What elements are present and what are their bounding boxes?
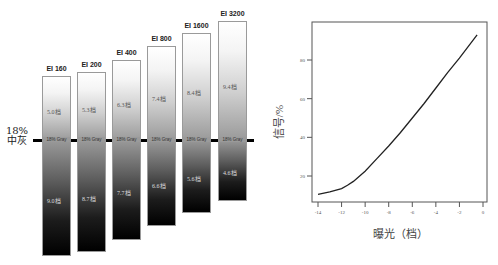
stops-under-label: 8.7档 [82,194,96,203]
y-axis-ticks: 20406080 [300,58,312,179]
ei-bar [147,46,176,226]
stops-under-label: 9.0档 [47,196,61,205]
x-tick-label: -12 [338,210,345,215]
y-axis-label: 信号/% [273,105,285,139]
gray-18-label: 18% Gray [112,137,141,142]
stops-over-label: 6.3档 [117,100,131,109]
stops-over-label: 7.4档 [152,94,166,103]
stops-under-label: 6.6档 [152,181,166,190]
x-tick-label: -14 [315,210,322,215]
ei-label: EI 160 [37,65,77,72]
y-tick-label: 20 [300,174,306,179]
ei-bar [182,33,211,213]
x-tick-label: -10 [362,210,369,215]
x-tick-label: -2 [457,210,462,215]
ei-label: EI 3200 [213,10,253,17]
stops-over-label: 8.4档 [187,88,201,97]
gray-18-label: 18% Gray [218,137,247,142]
ei-label: EI 1600 [177,22,217,29]
x-axis-label: 曝光（档） [373,227,428,240]
x-tick-label: -8 [387,210,392,215]
ei-label: EI 800 [142,35,182,42]
middle-gray-text: 中灰 [2,136,32,146]
ei-dynamic-range-bars: 18% 中灰 EI 1605.0档9.0档EI 2005.3档8.7档EI 40… [0,0,260,265]
gray-18-label: 18% Gray [42,137,71,142]
gray-18-label: 18% Gray [147,137,176,142]
stops-over-label: 5.0档 [47,107,61,116]
stops-under-label: 4.6档 [223,168,237,177]
ei-label: EI 400 [107,49,147,56]
gray-18-label: 18% Gray [77,137,106,142]
plot-frame [312,22,487,202]
stops-under-label: 7.7档 [117,188,131,197]
y-tick-label: 60 [300,97,306,102]
middle-gray-label: 18% 中灰 [2,126,32,146]
x-tick-label: -4 [434,210,439,215]
x-tick-label: -6 [410,210,415,215]
stops-over-label: 5.3档 [82,105,96,114]
ei-bar [112,60,141,240]
y-tick-label: 40 [300,135,306,140]
stops-over-label: 9.4档 [223,82,237,91]
ei-bar [77,72,106,252]
x-axis-ticks: -14-12-10-8-6-4-20 [315,202,485,215]
ei-label: EI 200 [72,61,112,68]
signal-exposure-chart: 20406080 -14-12-10-8-6-4-20 信号/% 曝光（档） [270,0,498,265]
y-tick-label: 80 [300,58,306,63]
gray-18-label: 18% Gray [182,137,211,142]
ei-bar [42,76,71,256]
stops-under-label: 5.6档 [187,174,201,183]
chart-svg: 20406080 -14-12-10-8-6-4-20 信号/% 曝光（档） [270,0,498,265]
x-tick-label: 0 [482,210,485,215]
